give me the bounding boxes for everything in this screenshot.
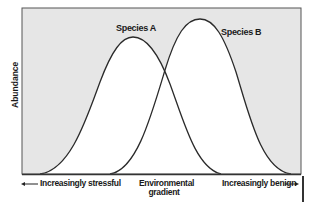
left-axis-annotation: Increasingly stressful (40, 178, 121, 188)
y-axis-label: Abundance (10, 78, 24, 108)
page-edge-divider (302, 176, 304, 202)
center-axis-line2: gradient (139, 187, 189, 197)
right-axis-annotation: Increasingly benign (222, 178, 296, 188)
chart-canvas (0, 0, 313, 206)
species-a-label: Species A (116, 23, 156, 33)
species-b-label: Species B (221, 27, 261, 37)
left-arrow-icon (21, 182, 38, 186)
niche-diagram: Abundance Species A Species B Increasing… (0, 0, 313, 206)
